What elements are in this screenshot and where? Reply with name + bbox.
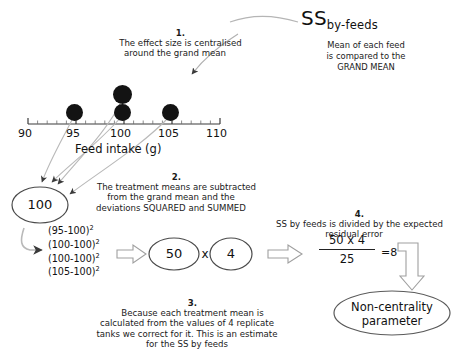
deviation-exponent: 2 [96, 238, 100, 246]
step-1-number: 1. [176, 28, 185, 38]
deviation-expression: (100-100) [48, 253, 96, 264]
deviation-row: (105-100)2 [48, 265, 100, 279]
result-value: =8 [381, 246, 397, 259]
data-point-100-lower [114, 104, 131, 121]
data-point-105 [162, 104, 179, 121]
data-point-95 [66, 104, 83, 121]
axis-tick-110: 110 [206, 127, 227, 140]
step-1-text: The effect size is centralised around th… [119, 38, 242, 58]
step-4-number: 4. [355, 209, 364, 219]
deviation-row: (95-100)2 [48, 224, 100, 238]
block-arrow-deviations-to-sum [117, 245, 146, 263]
page-title-subscript: by-feeds [327, 18, 378, 32]
sum-of-squares-value: 50 [148, 246, 200, 261]
title-note: Mean of each feed is compared to the GRA… [302, 40, 430, 73]
fraction-expression: 50 x 4 25 [319, 233, 375, 266]
data-point-100-upper [113, 85, 132, 104]
axis-label-feed-intake: Feed intake (g) [75, 142, 161, 156]
fraction-numerator: 50 x 4 [319, 233, 375, 248]
page-title: SSby-feeds [301, 6, 378, 30]
step-1-callout: 1. The effect size is centralised around… [100, 18, 250, 69]
deviation-row: (100-100)2 [48, 238, 100, 252]
page-title-main: SS [301, 6, 327, 30]
block-arrow-to-ncp [398, 243, 424, 290]
fraction-bar [319, 249, 375, 250]
deviation-exponent: 2 [89, 224, 93, 232]
grand-mean-value: 100 [14, 197, 66, 212]
deviation-expression: (100-100) [48, 239, 96, 250]
non-centrality-parameter-label: Non-centrality parameter [340, 301, 444, 329]
deviations-list: (95-100)2 (100-100)2 (100-100)2 (105-100… [48, 224, 100, 279]
step-2-text: The treatment means are subtracted from … [96, 182, 256, 212]
fraction-denominator: 25 [319, 251, 375, 266]
deviation-row: (100-100)2 [48, 252, 100, 266]
step-3-text: Because each treatment mean is calculate… [96, 308, 277, 348]
axis-tick-100: 100 [110, 127, 131, 140]
deviation-expression: (95-100) [48, 225, 89, 236]
deviation-exponent: 2 [96, 252, 100, 260]
step-2-callout: 2. The treatment means are subtracted fr… [72, 162, 270, 223]
axis-tick-95: 95 [66, 127, 80, 140]
axis-minor-ticks [38, 121, 211, 125]
step-3-callout: 3. Because each treatment mean is calcul… [84, 288, 290, 353]
deviation-exponent: 2 [96, 265, 100, 273]
axis-tick-105: 105 [158, 127, 179, 140]
step-3-number: 3. [188, 298, 197, 308]
deviation-expression: (105-100) [48, 267, 96, 278]
replicates-value: 4 [210, 246, 252, 261]
axis-tick-90: 90 [18, 127, 32, 140]
step-2-number: 2. [172, 172, 181, 182]
connector-grandmean-to-deviations [22, 228, 42, 250]
